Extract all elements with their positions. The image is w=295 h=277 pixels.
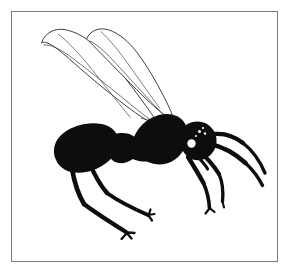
hindleg-tibia: [84, 204, 126, 232]
ocellus-left: [204, 132, 206, 134]
gaster: [54, 123, 118, 173]
head: [180, 121, 217, 160]
hindleg: [72, 169, 84, 204]
midleg-tarsus-claw: [148, 210, 155, 221]
antenna-funiculus: [243, 143, 265, 173]
head-highlight-dot: [195, 135, 197, 137]
insect-illustration: [0, 0, 295, 277]
midleg-right-tarsus: [223, 202, 225, 208]
midleg-right-tibia: [219, 174, 223, 202]
ocellus-median: [198, 130, 201, 133]
figure-root: Black silhouette drawing of a winged ant…: [0, 0, 295, 277]
foreleg-tibia: [204, 183, 210, 208]
midleg-tibia: [107, 193, 148, 215]
wings-group: [42, 29, 173, 125]
ocellus-right: [202, 127, 204, 129]
hindleg-right-tibia: [246, 163, 263, 186]
hindleg-right-femur: [210, 144, 246, 163]
antenna-scape: [214, 134, 243, 143]
foreleg-tarsus-claw: [206, 208, 215, 214]
eye: [187, 139, 195, 147]
hindleg-tarsus-claw: [122, 232, 135, 239]
body-group: [54, 114, 265, 239]
